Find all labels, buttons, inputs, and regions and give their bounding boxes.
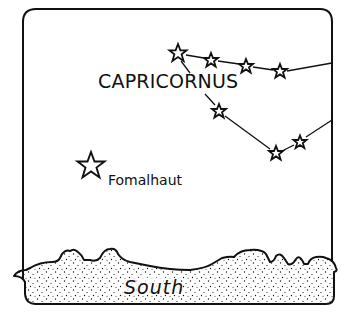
- star-icon: [169, 44, 186, 61]
- bright-star-icon: [78, 152, 105, 178]
- horizon-direction-label: South: [124, 276, 184, 298]
- star-icon: [273, 64, 287, 78]
- star-chart-drawing: [0, 0, 347, 317]
- constellation-stars: [169, 44, 306, 160]
- star-icon: [269, 146, 283, 160]
- star-icon: [212, 104, 226, 118]
- constellation-label: CAPRICORNUS: [98, 70, 238, 92]
- star-icon: [204, 53, 218, 67]
- star-icon: [294, 136, 307, 149]
- star-icon: [239, 59, 253, 73]
- fomalhaut-label: Fomalhaut: [108, 172, 182, 188]
- star-chart: CAPRICORNUS Fomalhaut South: [0, 0, 347, 317]
